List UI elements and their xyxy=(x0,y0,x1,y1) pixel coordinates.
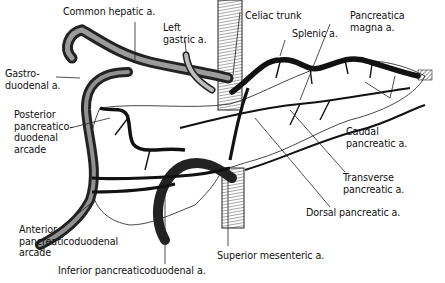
label-transverse-pancreatic: Transverse pancreatic a. xyxy=(343,172,404,195)
label-anterior-pd-arcade: Anterior pancreaticoduodenal arcade xyxy=(19,224,118,259)
posterior-pd-arcade-vessel xyxy=(100,108,185,150)
label-caudal-pancreatic: Caudal pancreatic a. xyxy=(346,126,407,149)
label-celiac-trunk: Celiac trunk xyxy=(245,10,301,22)
small-branches xyxy=(115,60,372,170)
label-pancreatica-magna: Pancreatica magna a. xyxy=(350,10,405,33)
label-left-gastric: Left gastric a. xyxy=(163,22,207,45)
label-posterior-pd-arcade: Posterior pancreatico- duodenal arcade xyxy=(14,109,73,155)
label-superior-mesenteric: Superior mesenteric a. xyxy=(217,250,324,262)
label-inferior-pd: Inferior pancreaticoduodenal a. xyxy=(58,265,206,277)
label-dorsal-pancreatic: Dorsal pancreatic a. xyxy=(306,207,400,219)
splenic-artery xyxy=(232,59,418,92)
pancreas-arterial-supply-diagram: Common hepatic a. Left gastric a. Celiac… xyxy=(0,0,445,283)
transverse-pancreatic-artery xyxy=(180,88,410,128)
label-gastroduodenal: Gastro- duodenal a. xyxy=(5,68,61,91)
label-splenic: Splenic a. xyxy=(292,28,338,40)
label-common-hepatic: Common hepatic a. xyxy=(63,6,155,18)
